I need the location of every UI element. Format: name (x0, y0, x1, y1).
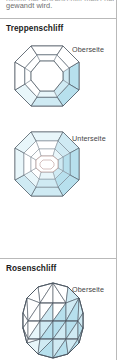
intro-line-visible: gewandt wird. (6, 1, 114, 11)
section-divider-treppenschliff (0, 18, 117, 19)
document-page: nimmt der Rosenschliff meist der gewandt… (0, 0, 117, 360)
figure-treppenschliff-unterseite (9, 128, 85, 202)
figure-rosenschliff-oberseite (14, 281, 92, 360)
section-divider-rosenschliff (0, 258, 117, 259)
figure-treppenschliff-oberseite (9, 40, 85, 112)
page-gutter (118, 0, 131, 360)
section-title-rosenschliff: Rosenschliff (6, 264, 56, 273)
intro-text-block: nimmt der Rosenschliff meist der gewandt… (6, 0, 114, 11)
section-title-treppenschliff: Treppenschliff (6, 24, 63, 33)
